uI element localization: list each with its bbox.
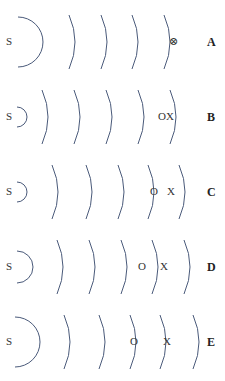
wavefront-arc [132, 15, 138, 69]
wavefront-arc [106, 90, 112, 144]
observer-marker: O [138, 261, 146, 272]
source-label: S [6, 261, 12, 272]
row-label-b: B [207, 111, 215, 123]
source-label: S [6, 186, 12, 197]
wavefront-arc [99, 315, 105, 369]
source-wavefront [18, 17, 43, 67]
observer-marker: O [130, 336, 138, 347]
source-wavefront [17, 251, 33, 283]
wavefront-arc [64, 315, 70, 369]
wavefront-arc [121, 240, 127, 294]
wavefront-arc [118, 165, 124, 219]
source-label: S [6, 111, 12, 122]
observer-marker: O [150, 186, 158, 197]
source-label: S [6, 336, 12, 347]
row-label-a: A [207, 36, 216, 48]
observer-marker: X [160, 261, 168, 272]
observer-marker: ⊗ [169, 36, 178, 47]
source-wavefront [15, 317, 40, 367]
wavefront-arc [42, 90, 48, 144]
wavefront-arc [74, 90, 80, 144]
source-wavefront [17, 107, 27, 127]
row-label-d: D [207, 261, 216, 273]
wavefront-arc [138, 90, 144, 144]
wavefront-arc [89, 240, 95, 294]
row-label-c: C [207, 186, 216, 198]
observer-marker: OX [158, 111, 174, 122]
source-wavefront [17, 182, 27, 202]
wavefront-arc [193, 315, 199, 369]
wavefront-arc [86, 165, 92, 219]
wavefront-arc [57, 240, 63, 294]
wavefront-arc [52, 165, 58, 219]
observer-marker: X [163, 336, 171, 347]
wavefront-arc [101, 15, 107, 69]
wavefront-arc [184, 240, 190, 294]
wave-diagram [0, 0, 225, 381]
row-label-e: E [207, 336, 215, 348]
source-label: S [6, 36, 12, 47]
wavefront-arc [69, 15, 75, 69]
wavefront-arc [179, 165, 185, 219]
wavefront-arc [152, 240, 158, 294]
observer-marker: X [167, 186, 175, 197]
